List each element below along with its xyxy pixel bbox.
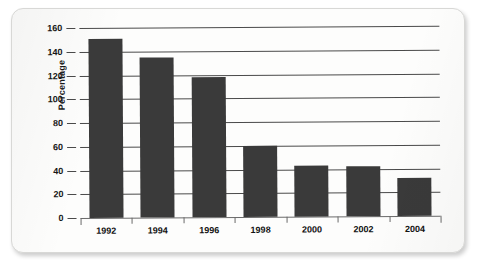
y-axis-tick xyxy=(67,123,76,124)
bar[interactable] xyxy=(295,165,329,216)
x-axis-tick-label: 1998 xyxy=(251,225,271,235)
x-axis-tick-label: 1996 xyxy=(199,225,219,235)
y-axis-tick xyxy=(67,170,76,171)
y-axis-tick xyxy=(67,75,76,76)
x-axis-tick-label: 2004 xyxy=(405,224,425,234)
y-axis-tick-label: 120 xyxy=(48,71,63,81)
chart-inner: Percentage 020406080100120140160 1992199… xyxy=(11,8,464,253)
y-axis-tick xyxy=(67,194,76,195)
y-axis-tick xyxy=(68,218,77,219)
x-axis-tick-label: 2000 xyxy=(302,224,322,234)
y-axis-tick xyxy=(67,52,76,53)
y-axis-tick xyxy=(66,28,75,29)
y-axis-tick-label: 40 xyxy=(53,166,63,176)
chart-card: Percentage 020406080100120140160 1992199… xyxy=(11,8,465,253)
bar-slot xyxy=(337,26,390,216)
bar-series xyxy=(79,26,440,218)
y-axis-tick-label: 140 xyxy=(47,47,62,57)
bar-slot xyxy=(182,27,235,217)
x-axis-end-tick xyxy=(441,216,442,223)
x-axis-labels: 1992199419961998200020022004 xyxy=(81,224,441,242)
bar-slot xyxy=(131,27,184,217)
bar-slot xyxy=(388,26,441,216)
y-axis-tick-label: 60 xyxy=(53,142,63,152)
bar[interactable] xyxy=(398,178,432,216)
bar[interactable] xyxy=(140,57,175,218)
y-axis-tick xyxy=(67,147,76,148)
bar[interactable] xyxy=(243,146,277,217)
x-axis-end-tick xyxy=(81,218,82,225)
x-axis-tick-label: 2002 xyxy=(353,224,373,234)
bar-slot xyxy=(285,26,338,216)
bar-slot xyxy=(79,28,132,218)
x-axis-tick-label: 1994 xyxy=(148,225,168,235)
bar[interactable] xyxy=(88,38,123,218)
y-axis-tick xyxy=(67,99,76,100)
bar-slot xyxy=(234,27,287,217)
x-axis-tick-label: 1992 xyxy=(96,226,116,236)
plot-area: 020406080100120140160 xyxy=(79,26,440,218)
y-axis-tick-label: 80 xyxy=(53,118,63,128)
bar[interactable] xyxy=(346,166,380,216)
y-axis-tick-label: 0 xyxy=(58,213,63,223)
y-axis-tick-label: 160 xyxy=(47,23,62,33)
bar[interactable] xyxy=(191,77,226,217)
screenshot-root: Percentage 020406080100120140160 1992199… xyxy=(0,0,478,265)
y-axis-tick-label: 20 xyxy=(53,189,63,199)
y-axis-tick-label: 100 xyxy=(48,94,63,104)
